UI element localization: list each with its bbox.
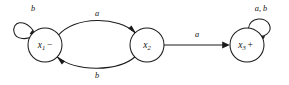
state-node-x3[interactable]: x3+ bbox=[230, 28, 264, 62]
state-node-x2[interactable]: x2 bbox=[130, 28, 164, 62]
transition-label-x1-to-x2: a bbox=[95, 9, 99, 18]
transition-label-x2-to-x3: a bbox=[195, 30, 199, 39]
transition-x2-to-x1-path bbox=[58, 57, 136, 69]
transition-label-x1-self-loop: b bbox=[31, 4, 35, 13]
transition-label-x2-to-x1: b bbox=[95, 71, 99, 80]
transition-x2-to-x1 bbox=[57, 56, 136, 68]
state-diagram-canvas: x1− x2 x3+ b a b a a, b bbox=[0, 0, 289, 85]
state-x1-subscript: 1 bbox=[42, 44, 45, 51]
transition-label-x3-self-loop: a, b bbox=[255, 4, 268, 13]
state-x3-sign: + bbox=[247, 40, 252, 50]
state-node-x1[interactable]: x1− bbox=[28, 28, 62, 62]
transition-x2-to-x3-arrowhead bbox=[222, 42, 230, 49]
transition-x1-to-x2 bbox=[58, 21, 136, 36]
transition-x1-to-x2-path bbox=[58, 21, 135, 36]
transition-x2-to-x1-arrowhead bbox=[57, 56, 65, 64]
transition-x2-to-x3 bbox=[164, 42, 230, 49]
state-x1-sign: − bbox=[47, 40, 52, 50]
state-x3-subscript: 3 bbox=[241, 44, 246, 51]
